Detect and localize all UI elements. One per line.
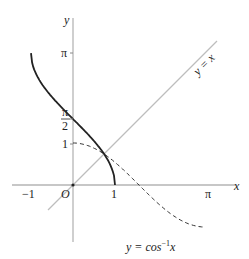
curve-label-sup: −1	[161, 239, 170, 248]
x-axis-label: x	[233, 179, 240, 193]
curve-label-suffix: x	[169, 240, 176, 254]
x-tick-label-pi: π	[205, 187, 211, 201]
y-axis-label: y	[63, 13, 70, 27]
origin-label: O	[61, 187, 70, 201]
y-tick-label-half-pi-den: 2	[62, 119, 68, 133]
y-tick-label-half-pi-num: π	[62, 105, 68, 119]
y-tick-label-pi: π	[61, 46, 67, 60]
graph-svg: y x O −1 1 π 1 π π 2 y = x y = cos−1x	[0, 0, 249, 259]
origin-point	[71, 183, 74, 186]
curve-label: y = cos−1x	[125, 239, 176, 254]
line-label: y = x	[190, 50, 219, 79]
x-tick-label-minus-one: −1	[22, 187, 35, 201]
x-tick-label-one: 1	[111, 187, 117, 201]
y-tick-label-one: 1	[62, 137, 68, 151]
curve-label-prefix: y = cos	[125, 240, 162, 254]
graph-figure: y x O −1 1 π 1 π π 2 y = x y = cos−1x	[0, 0, 249, 259]
